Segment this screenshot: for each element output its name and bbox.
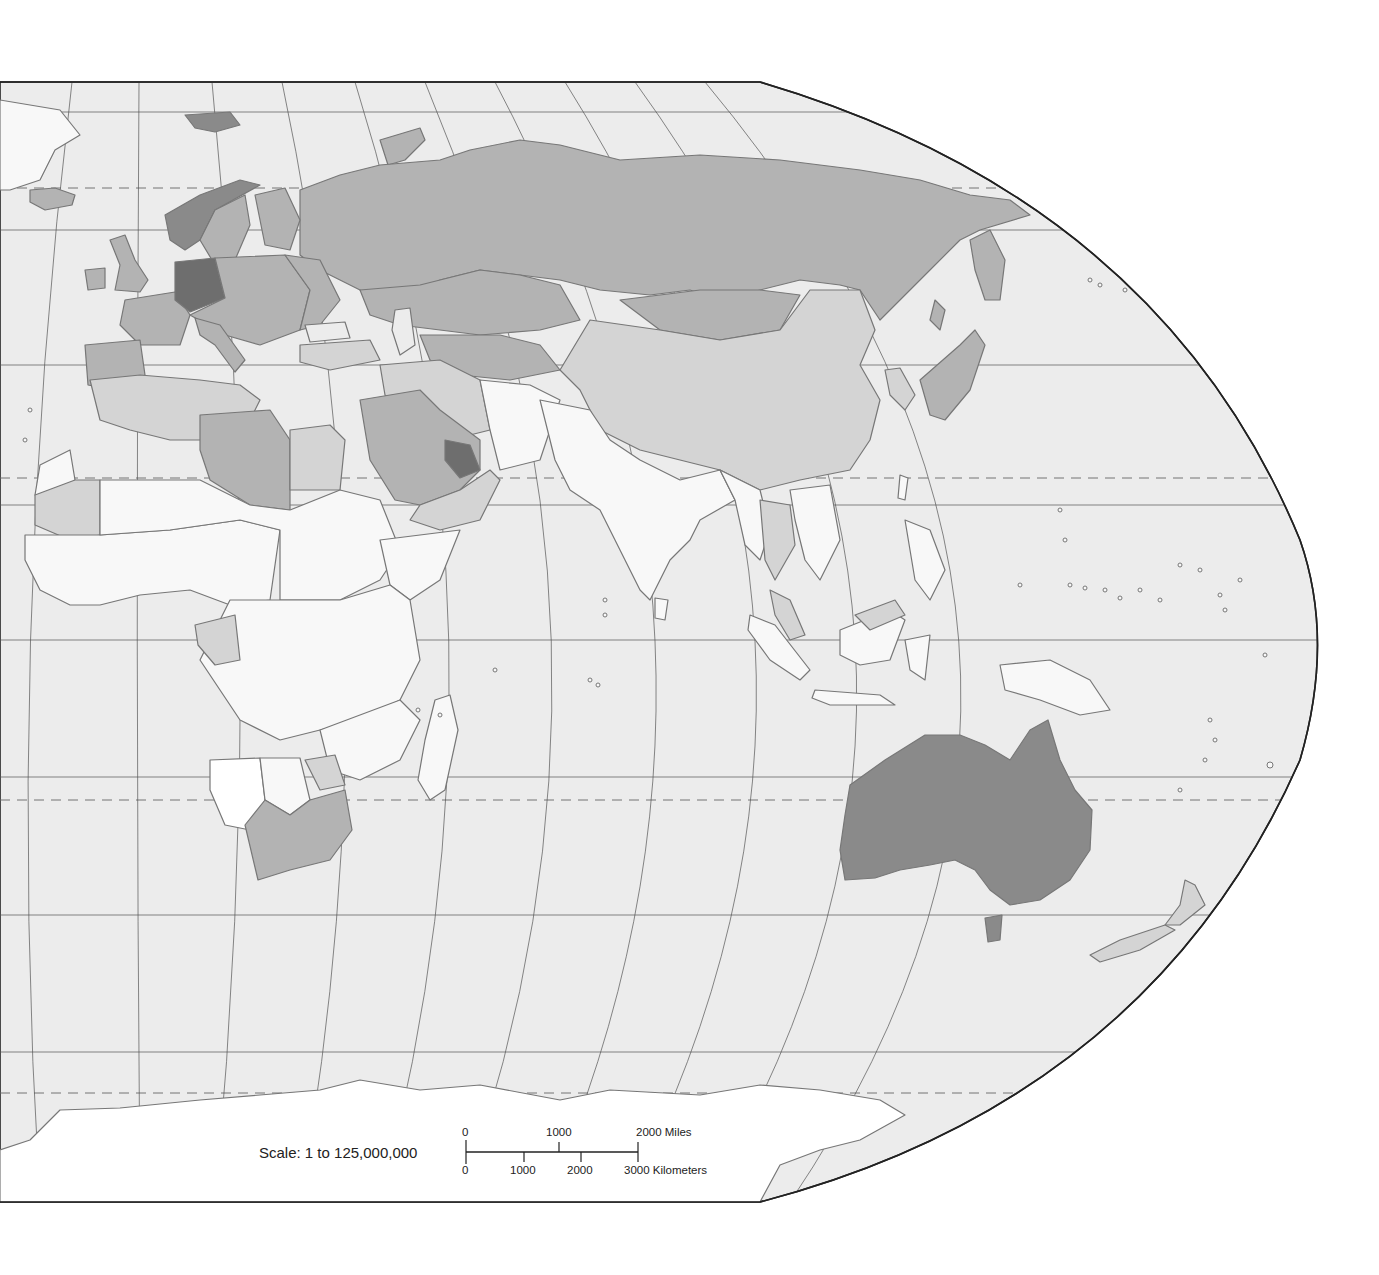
scale-km-tick-1000: 1000 [510, 1164, 536, 1176]
scale-ratio-label: Scale: 1 to 125,000,000 [259, 1144, 417, 1161]
scale-miles-tick-2000: 2000 Miles [636, 1126, 692, 1138]
world-map [0, 0, 1379, 1275]
scale-km-tick-2000: 2000 [567, 1164, 593, 1176]
scale-miles-tick-1000: 1000 [546, 1126, 572, 1138]
ireland [85, 268, 105, 290]
scale-km-tick-3000: 3000 Kilometers [624, 1164, 707, 1176]
tasmania [985, 915, 1002, 942]
scale-km-tick-0: 0 [462, 1164, 468, 1176]
black-sea [305, 322, 350, 342]
scale-bar-graphic [462, 1126, 762, 1186]
sri-lanka [655, 598, 668, 620]
scale-bar: 0 1000 2000 Miles 0 1000 2000 3000 Kilom… [462, 1126, 762, 1186]
egypt [290, 425, 345, 490]
scale-miles-tick-0: 0 [462, 1126, 468, 1138]
